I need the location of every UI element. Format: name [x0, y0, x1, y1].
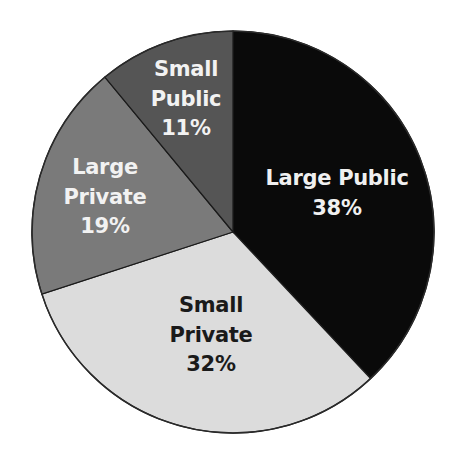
slice-name: Private	[170, 323, 253, 347]
slice-label-small-public: SmallPublic11%	[151, 57, 221, 140]
slice-name: Small	[154, 57, 218, 81]
slice-name: Small	[179, 293, 243, 317]
slice-percent: 38%	[312, 196, 362, 220]
pie-chart: Large Public38%SmallPrivate32%LargePriva…	[0, 0, 457, 465]
slice-name: Private	[64, 185, 147, 209]
slice-percent: 32%	[186, 352, 236, 376]
slice-name: Public	[151, 87, 221, 111]
slice-name: Large	[72, 155, 138, 179]
slice-percent: 11%	[161, 116, 211, 140]
slice-percent: 19%	[80, 214, 130, 238]
slice-name: Large Public	[265, 166, 408, 190]
